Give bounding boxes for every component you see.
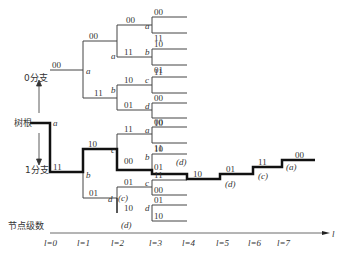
- svg-text:c: c: [145, 178, 149, 188]
- level-label: l=3: [149, 238, 163, 248]
- level-label: l=6: [248, 238, 262, 248]
- svg-text:b: b: [145, 47, 150, 57]
- svg-text:c: c: [145, 75, 149, 85]
- state-labels: a a b a b c d a b c d a b c d: [53, 21, 150, 213]
- svg-text:10: 10: [124, 75, 134, 85]
- svg-text:11: 11: [94, 88, 103, 98]
- svg-text:b: b: [86, 170, 91, 180]
- svg-text:10: 10: [154, 144, 164, 154]
- svg-text:c: c: [111, 145, 115, 155]
- svg-text:01: 01: [226, 164, 235, 174]
- svg-text:00: 00: [154, 93, 164, 103]
- svg-text:(c): (c): [258, 171, 268, 181]
- level-axis-label: 节点级数: [8, 220, 44, 231]
- svg-text:(d): (d): [121, 220, 132, 230]
- svg-text:01: 01: [89, 188, 98, 198]
- svg-text:00: 00: [124, 156, 134, 166]
- svg-text:(a): (a): [286, 162, 297, 172]
- svg-text:(d): (d): [176, 157, 187, 167]
- svg-text:a: a: [53, 118, 58, 128]
- svg-text:a: a: [86, 66, 91, 76]
- svg-text:01: 01: [154, 195, 163, 205]
- svg-text:00: 00: [295, 150, 305, 160]
- svg-text:d: d: [145, 203, 150, 213]
- svg-text:11: 11: [124, 124, 133, 134]
- svg-text:00: 00: [52, 60, 62, 70]
- svg-text:01: 01: [124, 100, 133, 110]
- branch1-label: 1分支: [25, 164, 49, 175]
- svg-text:b: b: [111, 85, 116, 95]
- svg-text:11: 11: [258, 157, 267, 167]
- svg-text:11: 11: [124, 47, 133, 57]
- svg-text:11: 11: [154, 67, 163, 77]
- svg-text:10: 10: [154, 39, 164, 49]
- level-label: l=5: [216, 238, 230, 248]
- branch-output-labels: 00 11 00 11 10 01 00 11 10 01 11 00 01 1…: [52, 7, 164, 221]
- svg-text:10: 10: [124, 203, 134, 213]
- svg-text:00: 00: [126, 15, 136, 25]
- level-axis: l 节点级数 l=0 l=1 l=2 l=3 l=4 l=5 l=6 l=7: [8, 220, 335, 248]
- highlighted-path: [30, 123, 315, 213]
- root-label: 树根: [14, 117, 32, 128]
- svg-text:00: 00: [89, 31, 99, 41]
- svg-text:a: a: [145, 125, 150, 135]
- svg-text:10: 10: [88, 139, 98, 149]
- svg-text:10: 10: [154, 211, 164, 221]
- svg-text:a: a: [111, 51, 116, 61]
- svg-text:a: a: [145, 21, 150, 31]
- svg-text:b: b: [145, 152, 150, 162]
- svg-text:11: 11: [53, 162, 62, 172]
- svg-text:(c): (c): [118, 193, 128, 203]
- axis-var-label: l: [332, 229, 335, 239]
- svg-text:(d): (d): [225, 179, 236, 189]
- level-label: l=4: [182, 238, 196, 248]
- level-label: l=0: [44, 238, 58, 248]
- svg-text:00: 00: [154, 7, 164, 17]
- level-label: l=1: [77, 238, 90, 248]
- svg-text:d: d: [145, 101, 150, 111]
- svg-text:00: 00: [154, 185, 164, 195]
- code-tree-diagram: l 节点级数 l=0 l=1 l=2 l=3 l=4 l=5 l=6 l=7 0…: [0, 0, 344, 259]
- path-labels: 10 01 11 00 (d) (d) (c) (a) (c) (d): [118, 150, 305, 230]
- level-label: l=7: [277, 238, 291, 248]
- svg-text:d: d: [108, 194, 113, 204]
- svg-text:10: 10: [193, 169, 203, 179]
- tree-lines: [50, 17, 187, 221]
- svg-text:00: 00: [154, 117, 164, 127]
- svg-text:01: 01: [124, 177, 133, 187]
- level-label: l=2: [111, 238, 125, 248]
- branch0-label: 0分支: [24, 72, 48, 83]
- svg-text:11: 11: [154, 170, 163, 180]
